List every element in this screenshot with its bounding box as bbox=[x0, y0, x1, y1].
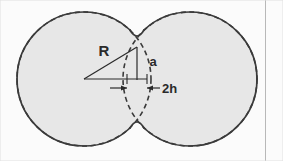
label-a: a bbox=[149, 54, 157, 69]
label-R: R bbox=[99, 42, 110, 59]
sphere-neck-diagram: R a 2h bbox=[0, 0, 283, 161]
label-2h: 2h bbox=[162, 81, 177, 96]
figure-container: R a 2h bbox=[0, 0, 283, 161]
